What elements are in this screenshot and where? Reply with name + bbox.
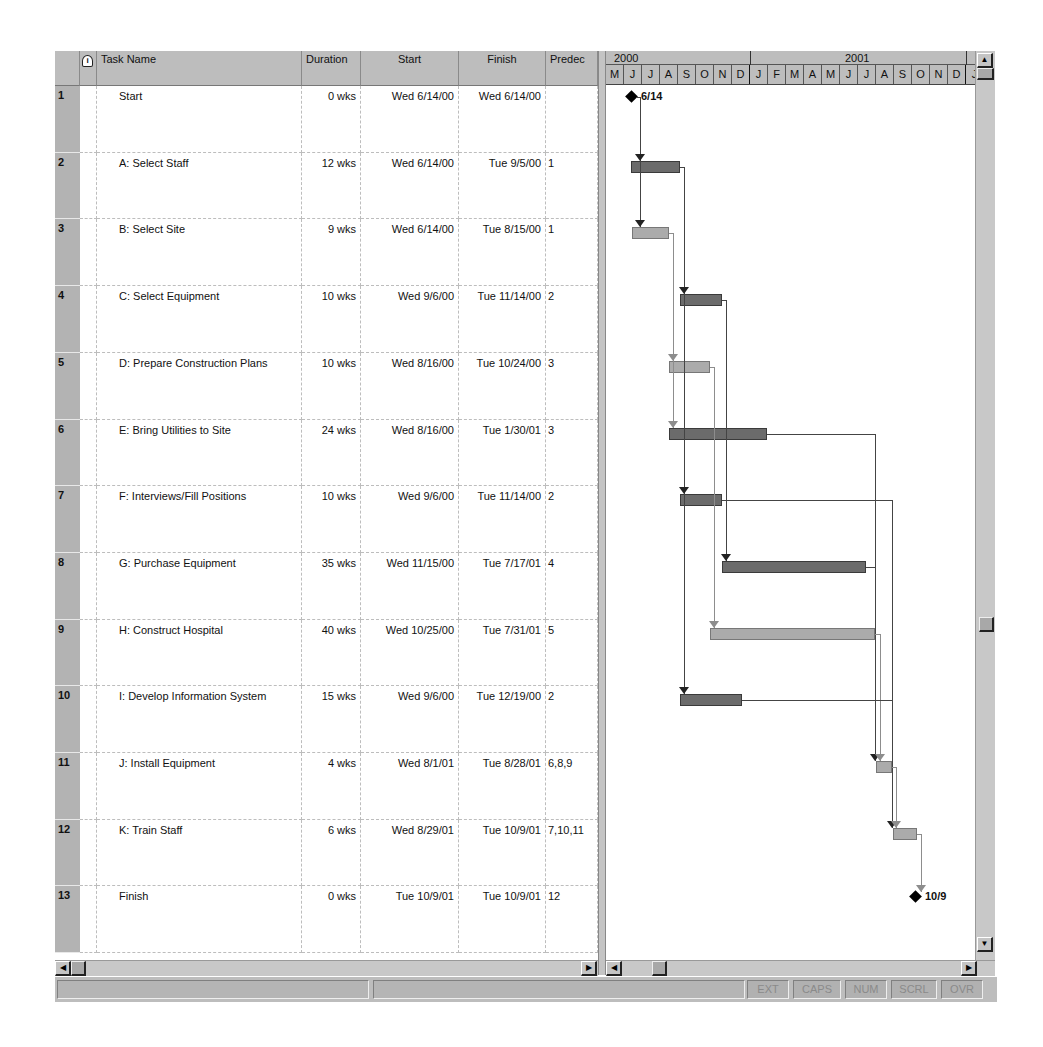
finish-cell[interactable]: Tue 11/14/00 (459, 486, 546, 553)
pane-splitter[interactable] (598, 51, 606, 975)
finish-cell[interactable]: Tue 1/30/01 (459, 420, 546, 486)
duration-cell[interactable]: 4 wks (302, 753, 361, 820)
task-bar[interactable] (876, 761, 892, 773)
predecessors-cell[interactable]: 5 (546, 620, 598, 686)
duration-cell[interactable]: 10 wks (302, 286, 361, 353)
predecessors-cell[interactable]: 3 (546, 353, 598, 420)
predecessors-cell[interactable]: 7,10,11 (546, 820, 598, 886)
table-scroll-right-button[interactable]: ▶ (581, 961, 597, 976)
header-predecessors[interactable]: Predec (546, 51, 598, 86)
task-name-cell[interactable]: D: Prepare Construction Plans (97, 353, 302, 420)
start-cell[interactable]: Wed 8/16/00 (361, 420, 459, 486)
duration-cell[interactable]: 40 wks (302, 620, 361, 686)
start-cell[interactable]: Wed 6/14/00 (361, 153, 459, 219)
header-indicators[interactable]: i (80, 51, 97, 86)
task-bar[interactable] (722, 561, 866, 573)
row-id[interactable]: 1 (55, 86, 80, 153)
task-bar[interactable] (680, 694, 742, 706)
finish-cell[interactable]: Tue 10/9/01 (459, 820, 546, 886)
row-id[interactable]: 13 (55, 886, 80, 953)
milestone-label[interactable]: 6/14 (641, 90, 662, 102)
finish-cell[interactable]: Tue 10/9/01 (459, 886, 546, 953)
predecessors-cell[interactable]: 12 (546, 886, 598, 953)
vertical-scrollbar[interactable]: ▲ ▼ (975, 51, 995, 960)
task-bar[interactable] (680, 294, 722, 306)
task-name-cell[interactable]: E: Bring Utilities to Site (97, 420, 302, 486)
finish-cell[interactable]: Tue 11/14/00 (459, 286, 546, 353)
task-bar[interactable] (631, 161, 680, 173)
row-id[interactable]: 8 (55, 553, 80, 620)
start-cell[interactable]: Tue 10/9/01 (361, 886, 459, 953)
header-select-all[interactable] (55, 51, 80, 86)
finish-cell[interactable]: Tue 8/15/00 (459, 219, 546, 286)
duration-cell[interactable]: 10 wks (302, 486, 361, 553)
duration-cell[interactable]: 12 wks (302, 153, 361, 219)
predecessors-cell[interactable]: 2 (546, 686, 598, 753)
finish-cell[interactable]: Tue 9/5/00 (459, 153, 546, 219)
start-cell[interactable]: Wed 8/1/01 (361, 753, 459, 820)
predecessors-cell[interactable]: 6,8,9 (546, 753, 598, 820)
start-cell[interactable]: Wed 8/16/00 (361, 353, 459, 420)
predecessors-cell[interactable]: 2 (546, 286, 598, 353)
predecessors-cell[interactable] (546, 86, 598, 153)
task-name-cell[interactable]: G: Purchase Equipment (97, 553, 302, 620)
duration-cell[interactable]: 6 wks (302, 820, 361, 886)
predecessors-cell[interactable]: 1 (546, 219, 598, 286)
duration-cell[interactable]: 10 wks (302, 353, 361, 420)
gantt-horizontal-scrollbar[interactable]: ◀ ▶ (606, 960, 995, 976)
duration-cell[interactable]: 0 wks (302, 86, 361, 153)
start-cell[interactable]: Wed 6/14/00 (361, 86, 459, 153)
row-id[interactable]: 12 (55, 820, 80, 886)
duration-cell[interactable]: 15 wks (302, 686, 361, 753)
finish-cell[interactable]: Tue 12/19/00 (459, 686, 546, 753)
row-id[interactable]: 6 (55, 420, 80, 486)
scroll-up-button[interactable]: ▲ (977, 53, 993, 68)
table-horizontal-scrollbar[interactable]: ◀ ▶ (55, 960, 598, 976)
duration-cell[interactable]: 9 wks (302, 219, 361, 286)
task-bar[interactable] (680, 494, 722, 506)
row-id[interactable]: 7 (55, 486, 80, 553)
row-id[interactable]: 2 (55, 153, 80, 219)
task-bar[interactable] (669, 361, 710, 373)
finish-cell[interactable]: Wed 6/14/00 (459, 86, 546, 153)
task-name-cell[interactable]: F: Interviews/Fill Positions (97, 486, 302, 553)
task-name-cell[interactable]: A: Select Staff (97, 153, 302, 219)
row-id[interactable]: 9 (55, 620, 80, 686)
finish-cell[interactable]: Tue 7/31/01 (459, 620, 546, 686)
task-name-cell[interactable]: I: Develop Information System (97, 686, 302, 753)
task-name-cell[interactable]: Start (97, 86, 302, 153)
task-name-cell[interactable]: H: Construct Hospital (97, 620, 302, 686)
row-id[interactable]: 11 (55, 753, 80, 820)
start-cell[interactable]: Wed 9/6/00 (361, 286, 459, 353)
scroll-down-button[interactable]: ▼ (977, 937, 993, 952)
duration-cell[interactable]: 35 wks (302, 553, 361, 620)
table-scroll-left-button[interactable]: ◀ (55, 961, 71, 976)
task-name-cell[interactable]: C: Select Equipment (97, 286, 302, 353)
header-duration[interactable]: Duration (302, 51, 361, 86)
task-name-cell[interactable]: J: Install Equipment (97, 753, 302, 820)
table-scroll-thumb[interactable] (71, 961, 86, 976)
row-id[interactable]: 4 (55, 286, 80, 353)
header-finish[interactable]: Finish (459, 51, 546, 86)
milestone-label[interactable]: 10/9 (925, 890, 946, 902)
task-bar[interactable] (893, 828, 917, 840)
gantt-scroll-left-button[interactable]: ◀ (606, 961, 622, 976)
finish-cell[interactable]: Tue 7/17/01 (459, 553, 546, 620)
start-cell[interactable]: Wed 6/14/00 (361, 219, 459, 286)
task-name-cell[interactable]: B: Select Site (97, 219, 302, 286)
vertical-scroll-thumb[interactable] (979, 617, 994, 632)
finish-cell[interactable]: Tue 10/24/00 (459, 353, 546, 420)
task-bar[interactable] (632, 227, 669, 239)
predecessors-cell[interactable]: 1 (546, 153, 598, 219)
header-task-name[interactable]: Task Name (97, 51, 302, 86)
start-cell[interactable]: Wed 10/25/00 (361, 620, 459, 686)
task-name-cell[interactable]: Finish (97, 886, 302, 953)
finish-cell[interactable]: Tue 8/28/01 (459, 753, 546, 820)
start-cell[interactable]: Wed 11/15/00 (361, 553, 459, 620)
row-id[interactable]: 5 (55, 353, 80, 420)
task-bar[interactable] (710, 628, 875, 640)
duration-cell[interactable]: 0 wks (302, 886, 361, 953)
row-id[interactable]: 10 (55, 686, 80, 753)
duration-cell[interactable]: 24 wks (302, 420, 361, 486)
row-id[interactable]: 3 (55, 219, 80, 286)
